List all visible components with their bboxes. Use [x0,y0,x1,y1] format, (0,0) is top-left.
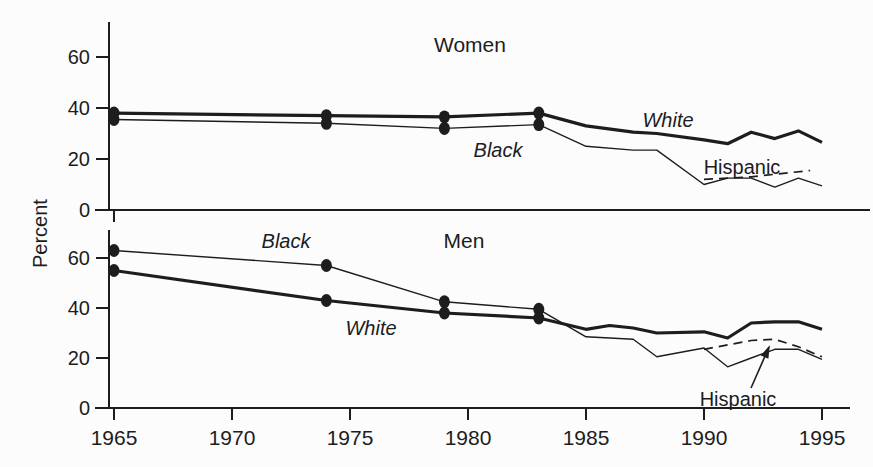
men-white-marker [321,294,332,307]
women-black-marker [321,117,332,130]
men-black-marker [109,244,120,257]
y-axis-title: Percent [29,199,51,268]
men-y-tick-label: 60 [68,247,90,269]
chart-svg: Percent 0204060WomenWhiteBlackHispanic 0… [0,0,873,467]
x-tick-label: 1985 [563,426,610,449]
men-white-marker [439,307,450,320]
men-black-marker [533,303,544,316]
men-hispanic-label: Hispanic [700,388,777,410]
men-y-tick-label: 20 [68,347,90,369]
men-y-tick-label: 0 [79,397,90,419]
x-tick-label: 1995 [799,426,846,449]
men-y-tick-label: 40 [68,297,90,319]
x-tick-label: 1980 [445,426,492,449]
chart-figure: Percent 0204060WomenWhiteBlackHispanic 0… [0,0,873,467]
women-white-label: White [642,109,693,131]
x-tick-label: 1970 [209,426,256,449]
men-black-marker [321,259,332,272]
men-white-marker [109,264,120,277]
women-white-marker [533,107,544,120]
women-black-marker [439,122,450,135]
women-hispanic-label: Hispanic [704,156,781,178]
men-black-label: Black [262,230,312,252]
men-white-label: White [345,317,396,339]
women-y-tick-label: 40 [68,97,90,119]
x-tick-label: 1975 [327,426,374,449]
women-black-marker [109,113,120,126]
men-black-marker [439,295,450,308]
women-title: Women [434,33,506,56]
women-black-marker [533,118,544,131]
x-tick-label: 1965 [91,426,138,449]
x-tick-label: 1990 [681,426,728,449]
women-y-tick-label: 0 [79,199,90,221]
women-white-marker [439,110,450,123]
women-y-tick-label: 20 [68,148,90,170]
women-black-label: Black [474,139,524,161]
women-y-tick-label: 60 [68,46,90,68]
men-title: Men [444,229,485,252]
